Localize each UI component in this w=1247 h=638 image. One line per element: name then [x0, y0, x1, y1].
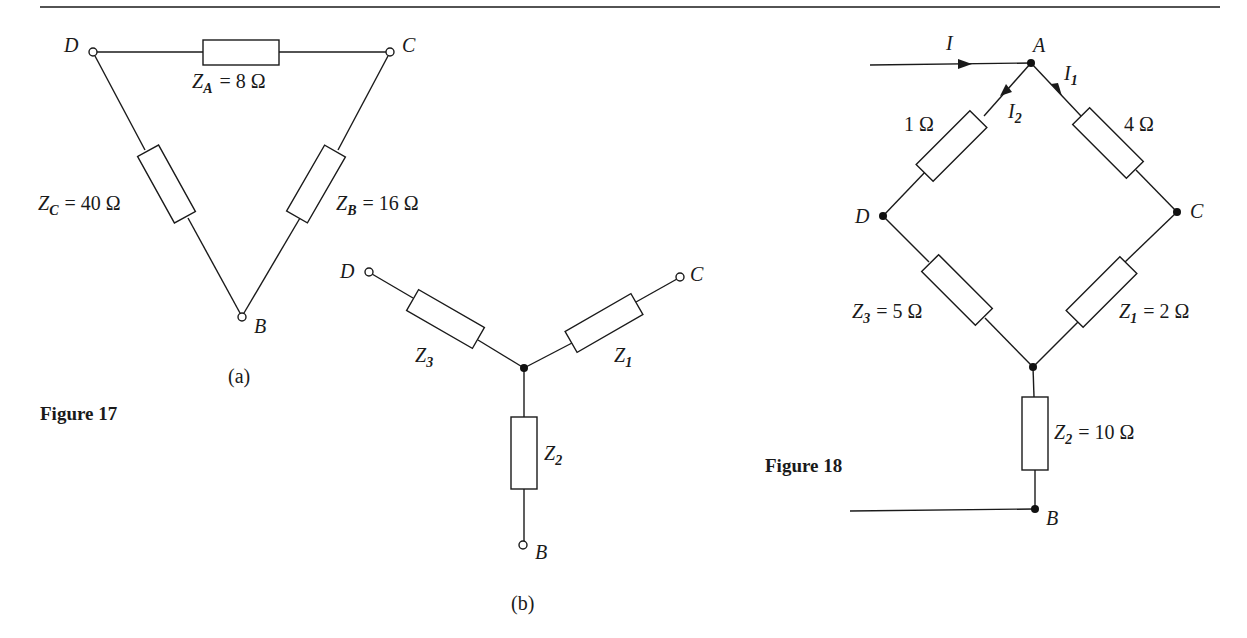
label-1-ohm: 1 Ω [904, 113, 934, 135]
resistor-z2 [511, 368, 537, 542]
resistor-za [203, 40, 279, 65]
resistor-4-ohm [1031, 63, 1177, 212]
current-label-i: I [945, 32, 954, 54]
node-label-c: C [690, 263, 704, 285]
label-z3: Z3 [415, 344, 433, 370]
star-center-node [520, 364, 528, 372]
node-label-d: D [63, 34, 79, 56]
node-label-b: B [1046, 507, 1058, 529]
resistor-z2-10-ohm [1022, 367, 1048, 509]
label-z3-5-ohm: Z3= 5 Ω [852, 300, 922, 326]
resistor-z3-5-ohm [883, 216, 1033, 367]
resistor-zc [95, 56, 240, 313]
current-label-i2: I2 [1007, 100, 1022, 126]
node-label-c: C [1190, 200, 1204, 222]
resistor-z1 [524, 279, 677, 368]
part-b-label: (b) [511, 592, 534, 615]
label-4-ohm: 4 Ω [1124, 113, 1154, 135]
node-label-d: D [339, 260, 355, 282]
resistor-1-ohm [883, 63, 1031, 216]
resistor-z3 [372, 274, 524, 368]
label-z2: Z2 [544, 442, 562, 468]
terminal-d [89, 48, 97, 56]
part-a-label: (a) [228, 365, 250, 388]
figure18-bridge: A D C B I I1 I2 1 Ω 4 Ω Z3= 5 Ω Z1= 2 Ω … [850, 32, 1204, 529]
figure17-part-a-delta: D C B ZA= 8 Ω ZC= 40 Ω ZB= 16 Ω (a) [38, 34, 419, 388]
node-label-a: A [1031, 34, 1046, 56]
terminal-b [519, 541, 527, 549]
label-z1: Z1 [614, 344, 632, 370]
node-star [1029, 363, 1037, 371]
node-b [1031, 505, 1039, 513]
label-zc: ZC= 40 Ω [38, 192, 121, 218]
figure17-part-b-star: D C B Z3 Z1 Z2 (b) [339, 260, 704, 615]
terminal-c [676, 273, 684, 281]
node-label-b: B [254, 315, 266, 337]
resistor-z1-2-ohm [1033, 212, 1177, 367]
node-d [879, 212, 887, 220]
arrow-icon-current-i1 [1051, 83, 1062, 96]
figure18-caption: Figure 18 [765, 455, 842, 476]
terminal-d [365, 268, 373, 276]
node-label-c: C [402, 34, 416, 56]
node-label-d: D [854, 205, 870, 227]
arrow-icon-current-i [958, 59, 972, 69]
terminal-b [238, 313, 246, 321]
node-c [1173, 208, 1181, 216]
label-z2-10-ohm: Z2= 10 Ω [1054, 421, 1134, 447]
node-label-b: B [535, 541, 547, 563]
label-z1-2-ohm: Z1= 2 Ω [1119, 300, 1189, 326]
node-a [1027, 59, 1035, 67]
current-label-i1: I1 [1063, 62, 1078, 88]
label-za: ZA= 8 Ω [192, 70, 266, 96]
figure17-caption: Figure 17 [40, 403, 118, 424]
label-zb: ZB= 16 Ω [336, 192, 419, 218]
terminal-c [386, 48, 394, 56]
